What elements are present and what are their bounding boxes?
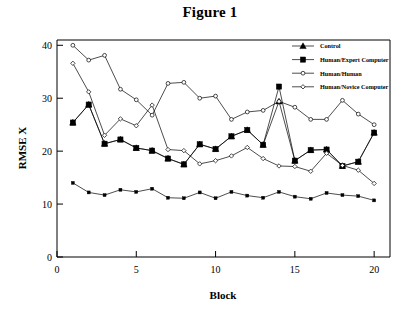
data-point-marker [245,110,249,114]
data-point-marker [102,141,107,146]
data-point-marker [308,147,313,152]
data-point-marker [245,127,250,132]
legend-item-human-human[interactable]: Human/Human [292,70,362,77]
legend-marker-icon [301,85,305,89]
data-point-marker [87,90,91,94]
data-point-marker [230,190,233,193]
y-axis-title: RMSE X [16,127,28,170]
data-point-marker [293,105,297,109]
data-point-marker [261,156,265,160]
data-point-marker [165,156,170,161]
data-point-marker [166,147,170,151]
data-point-marker [167,196,170,199]
data-point-marker [325,117,329,121]
data-point-marker [293,195,296,198]
data-point-marker [103,53,107,57]
data-point-marker [356,159,361,164]
y-tick-label: 30 [42,93,52,104]
series-line [73,63,374,183]
data-point-marker [357,195,360,198]
data-point-marker [134,98,138,102]
data-point-marker [372,130,377,135]
data-point-marker [119,87,123,91]
data-point-marker [214,197,217,200]
data-point-marker [118,137,123,142]
x-tick-label: 15 [290,264,300,275]
series-line [73,87,374,166]
data-point-marker [71,43,75,47]
data-point-marker [277,99,281,103]
y-tick-label: 40 [42,40,52,51]
data-point-marker [135,190,138,193]
chart-plot-area: 010203040 05101520 Block RMSE X ControlH… [0,0,420,318]
data-point-marker [87,58,91,62]
figure-container: Figure 1 010203040 05101520 Block RMSE X… [0,0,420,318]
data-point-marker [182,80,186,84]
data-point-marker [341,98,345,102]
data-point-marker [292,158,297,163]
data-point-marker [356,112,360,116]
x-tick-label: 20 [369,264,379,275]
x-axis-ticks: 05101520 [55,251,380,275]
data-point-marker [261,142,266,147]
legend-item-human-novice-computer[interactable]: Human/Novice Computer [292,83,388,90]
data-point-marker [103,194,106,197]
data-point-marker [278,190,281,193]
legend-item-control[interactable]: Control [292,42,341,49]
data-point-marker [70,120,75,125]
data-point-marker [293,164,297,168]
x-tick-label: 10 [211,264,221,275]
y-tick-label: 10 [42,199,52,210]
data-point-marker [309,197,312,200]
x-tick-label: 5 [134,264,139,275]
series-human-expert-computer [70,84,376,169]
data-point-marker [198,96,202,100]
data-point-marker [341,194,344,197]
data-point-marker [198,191,201,194]
data-point-marker [230,117,234,121]
data-point-marker [87,191,90,194]
data-point-marker [229,154,233,158]
data-point-marker [262,196,265,199]
data-point-marker [276,84,281,89]
data-point-marker [277,164,281,168]
data-point-marker [71,61,75,65]
data-point-marker [213,158,217,162]
legend-marker-icon [301,71,305,75]
legend-item-label: Human/Novice Computer [320,83,388,90]
chart-legend: ControlHuman/Expert ComputerHuman/HumanH… [292,42,389,90]
series-line [73,101,374,166]
data-point-marker [309,117,313,121]
y-axis-ticks: 010203040 [42,40,63,263]
data-point-marker [86,102,91,107]
series-human-novice-computer [71,61,377,186]
data-point-marker [181,162,186,167]
data-point-marker [373,199,376,202]
x-axis-title: Block [210,289,238,301]
data-point-marker [134,145,139,150]
data-point-marker [71,181,74,184]
data-point-marker [261,108,265,112]
data-point-marker [119,188,122,191]
data-point-marker [150,113,154,117]
data-point-marker [166,82,170,86]
data-point-marker [246,194,249,197]
y-tick-label: 20 [42,146,52,157]
data-point-marker [182,197,185,200]
y-tick-label: 0 [47,252,52,263]
legend-item-label: Human/Human [320,70,362,77]
series-line [73,183,374,200]
series-lower-band [71,181,375,201]
legend-item-label: Human/Expert Computer [320,56,389,63]
legend-item-label: Control [320,42,341,49]
data-point-marker [245,145,249,149]
data-point-marker [197,142,202,147]
legend-marker-icon [300,57,305,62]
data-series-group [70,43,378,201]
x-tick-label: 0 [55,264,60,275]
legend-item-human-expert-computer[interactable]: Human/Expert Computer [292,56,389,63]
data-point-marker [151,187,154,190]
data-point-marker [325,191,328,194]
data-point-marker [213,146,218,151]
data-point-marker [229,134,234,139]
